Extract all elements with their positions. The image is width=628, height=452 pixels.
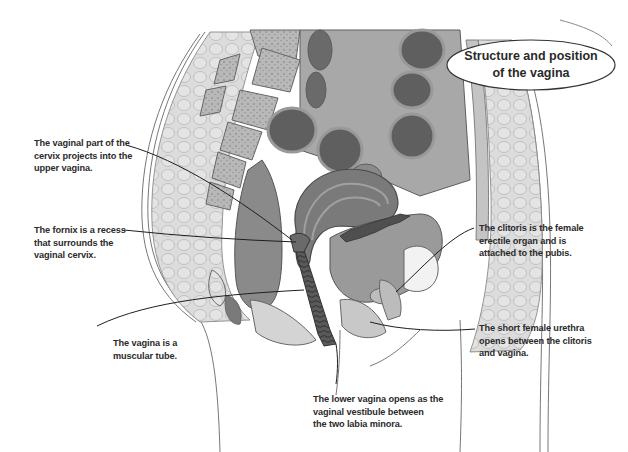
diagram-title: Structure and position of the vagina <box>444 36 618 94</box>
label-muscular-tube: The vagina is a muscular tube. <box>113 337 177 362</box>
anatomy-diagram: Structure and position of the vagina The… <box>0 0 628 452</box>
label-fornix: The fornix is a recess that surrounds th… <box>34 224 126 262</box>
pubic-bone <box>404 246 438 291</box>
label-urethra: The short female urethra opens between t… <box>479 322 592 360</box>
label-vaginal-cervix: The vaginal part of the cervix projects … <box>34 137 132 175</box>
leader-urethra <box>370 322 475 330</box>
label-vestibule: The lower vagina opens as the vaginal ve… <box>313 393 443 431</box>
leader-vestibule <box>336 344 338 384</box>
rectum <box>235 160 282 310</box>
label-clitoris: The clitoris is the female erectile orga… <box>479 222 584 260</box>
title-callout: Structure and position of the vagina <box>444 36 618 94</box>
thigh-lines <box>336 320 462 452</box>
